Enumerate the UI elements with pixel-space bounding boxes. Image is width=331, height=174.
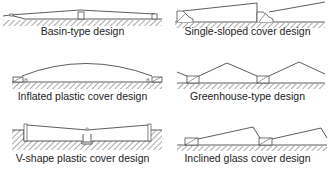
panel-single-sloped: Single-sloped cover design	[165, 0, 330, 58]
panel-basin-type: Basin-type design	[0, 0, 165, 58]
panel-inflated-plastic: Inflated plastic cover design	[0, 56, 165, 114]
v-shape-plastic-drawing	[0, 116, 165, 156]
caption-inclined-glass: Inclined glass cover design	[165, 152, 330, 164]
panel-v-shape-plastic: V-shape plastic cover design	[0, 116, 165, 174]
inclined-glass-drawing	[165, 116, 331, 156]
panel-greenhouse-type: Greenhouse-type design	[165, 56, 330, 114]
caption-inflated-plastic: Inflated plastic cover design	[0, 90, 165, 102]
caption-greenhouse-type: Greenhouse-type design	[165, 90, 330, 102]
caption-basin-type: Basin-type design	[0, 25, 165, 37]
panel-inclined-glass: Inclined glass cover design	[165, 116, 330, 174]
caption-single-sloped: Single-sloped cover design	[165, 25, 330, 37]
caption-v-shape-plastic: V-shape plastic cover design	[0, 152, 165, 164]
